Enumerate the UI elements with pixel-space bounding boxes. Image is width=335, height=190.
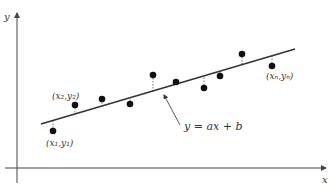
regression-equation: y = ax + b xyxy=(183,120,242,133)
data-point xyxy=(201,85,208,92)
regression-diagram: x y (x₁,y₁) (x₂,y₂) (xₙ,yₙ) y = ax + b xyxy=(0,0,335,190)
point-label-1: (x₁,y₁) xyxy=(46,138,74,148)
equation-pointer-arrow xyxy=(164,95,180,125)
x-axis-label: x xyxy=(322,174,328,185)
data-point xyxy=(150,72,157,79)
data-point xyxy=(72,102,79,109)
data-point xyxy=(269,63,276,70)
data-point xyxy=(127,101,134,108)
data-point xyxy=(50,128,57,135)
data-point xyxy=(173,79,180,86)
data-point xyxy=(239,51,246,58)
point-label-n: (xₙ,yₙ) xyxy=(266,71,294,81)
data-point xyxy=(99,96,106,103)
point-label-2: (x₂,y₂) xyxy=(52,91,80,101)
y-axis-label: y xyxy=(3,11,10,22)
data-point xyxy=(217,73,224,80)
regression-line xyxy=(41,49,295,124)
